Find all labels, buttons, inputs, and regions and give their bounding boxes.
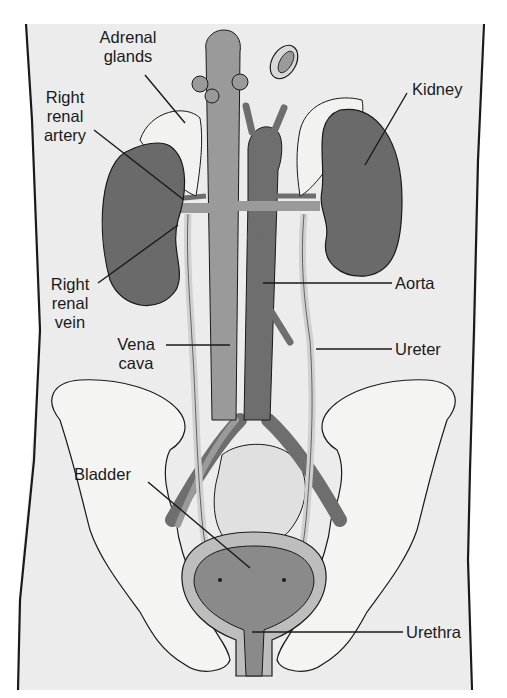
label-right-renal-vein: Right renal vein (44, 275, 96, 332)
label-aorta: Aorta (395, 274, 434, 293)
label-kidney: Kidney (412, 80, 462, 99)
label-right-renal-artery: Right renal artery (36, 88, 94, 145)
label-vena-cava: Vena cava (108, 335, 164, 373)
vena-cava-branch-right (232, 74, 248, 90)
vena-cava-branch-left (192, 76, 208, 92)
ureteral-orifice-right (282, 578, 286, 582)
right-kidney (102, 143, 184, 306)
vena-cava-branch-mid (205, 89, 219, 103)
ureteral-orifice-left (218, 578, 222, 582)
label-bladder: Bladder (74, 465, 131, 484)
label-adrenal-glands: Adrenal glands (88, 28, 168, 66)
label-ureter: Ureter (395, 340, 441, 359)
right-renal-artery-vessel (184, 196, 206, 198)
label-urethra: Urethra (406, 623, 461, 642)
